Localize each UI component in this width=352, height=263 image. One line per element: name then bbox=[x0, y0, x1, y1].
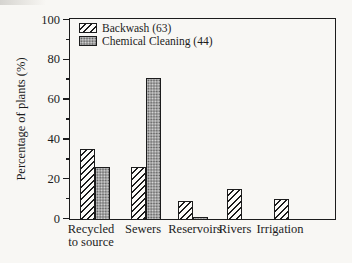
bar-chemical-cleaning-sewers bbox=[146, 78, 161, 219]
y-tick-label-0: 0 bbox=[30, 213, 60, 225]
bar-backwash-sewers bbox=[131, 167, 146, 219]
bar-backwash-rivers bbox=[227, 189, 242, 219]
chemical-cleaning-swatch-icon bbox=[79, 36, 97, 46]
x-tick-label-irrigation: Irrigation bbox=[256, 223, 303, 236]
legend-row-chemical-cleaning: Chemical Cleaning (44) bbox=[79, 34, 213, 47]
bar-backwash-recycled-to-source bbox=[80, 149, 95, 219]
backwash-swatch-icon bbox=[79, 23, 97, 33]
legend-row-backwash: Backwash (63) bbox=[79, 21, 213, 34]
x-tick-label-reservoirs: Reservoirs bbox=[168, 223, 221, 236]
legend: Backwash (63) Chemical Cleaning (44) bbox=[79, 21, 213, 47]
x-tick-label-recycled-to-source: Recycled to source bbox=[68, 223, 115, 249]
y-tick-label-60: 60 bbox=[30, 93, 60, 105]
x-tick-label-rivers: Rivers bbox=[219, 223, 252, 236]
legend-label-backwash: Backwash (63) bbox=[102, 22, 171, 34]
bar-backwash-reservoirs bbox=[178, 201, 193, 219]
y-tick-label-20: 20 bbox=[30, 173, 60, 185]
x-tick-label-sewers: Sewers bbox=[125, 223, 161, 236]
legend-label-chemical-cleaning: Chemical Cleaning (44) bbox=[102, 35, 213, 47]
bar-chemical-cleaning-reservoirs bbox=[193, 217, 208, 220]
y-axis-title: Percentage of plants (%) bbox=[14, 57, 29, 180]
bar-chart-figure: Percentage of plants (%) 020406080100 Ba… bbox=[0, 0, 352, 263]
bar-backwash-irrigation bbox=[274, 199, 289, 219]
scan-artifact bbox=[0, 0, 46, 5]
y-tick-label-80: 80 bbox=[30, 53, 60, 65]
y-tick-label-100: 100 bbox=[30, 14, 60, 26]
y-tick-label-40: 40 bbox=[30, 133, 60, 145]
plot-area: Backwash (63) Chemical Cleaning (44) bbox=[69, 18, 336, 220]
bar-chemical-cleaning-recycled-to-source bbox=[95, 167, 110, 219]
